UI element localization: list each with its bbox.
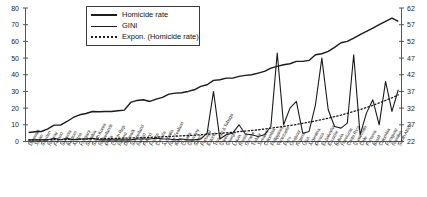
homicide-gini-chart: 01020304050607080 222732374247525762 Hom… [0, 0, 427, 197]
left-axis-tick-label: 30 [0, 88, 19, 95]
right-axis-tick-label: 57 [407, 21, 415, 28]
right-axis-tick-label: 42 [407, 71, 415, 78]
right-axis-tick-label: 32 [407, 105, 415, 112]
legend-label-exponential-trend: Expon. (Homicide rate) [122, 33, 199, 41]
right-axis-tick-label: 37 [407, 88, 415, 95]
legend-label-homicide-rate: Homicide rate [122, 11, 168, 19]
left-axis-tick-label: 50 [0, 55, 19, 62]
left-axis-tick-label: 10 [0, 121, 19, 128]
right-axis-tick-label: 52 [407, 38, 415, 45]
right-axis-tick-label: 62 [407, 5, 415, 12]
left-axis-tick-label: 20 [0, 105, 19, 112]
legend-swatch-dotted-icon [91, 33, 117, 41]
legend-item-homicide-rate: Homicide rate [91, 10, 195, 21]
right-axis-tick-label: 47 [407, 55, 415, 62]
legend-item-gini: GINI [91, 21, 195, 32]
x-axis-labels: DenmarkJapanSwedenNorwayFinlandSloveniaB… [0, 142, 427, 197]
left-axis-tick-label: 80 [0, 5, 19, 12]
legend-item-exponential-trend: Expon. (Homicide rate) [91, 31, 195, 42]
left-axis-tick-label: 60 [0, 38, 19, 45]
legend-label-gini: GINI [122, 22, 137, 30]
series-line-homicide-rate [29, 53, 399, 140]
chart-legend: Homicide rate GINI Expon. (Homicide rate… [86, 6, 200, 46]
left-axis-tick-label: 40 [0, 71, 19, 78]
legend-swatch-solid-thin-icon [91, 22, 117, 30]
series-line-gini [29, 18, 399, 132]
legend-swatch-solid-icon [91, 11, 117, 19]
left-axis-tick-label: 70 [0, 21, 19, 28]
